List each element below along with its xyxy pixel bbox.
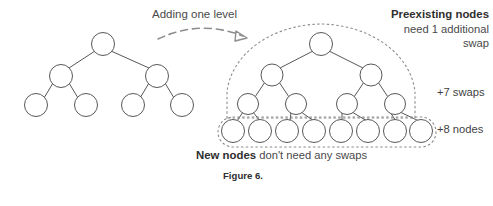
preexisting-nodes-title: Preexisting nodes xyxy=(381,7,489,22)
edge-a-a1 xyxy=(255,82,265,97)
adding-one-level-label: Adding one level xyxy=(152,7,237,22)
tree-node-new xyxy=(303,120,326,143)
tree-node xyxy=(310,33,333,56)
tree-node-new xyxy=(249,120,272,143)
tree-node-new xyxy=(384,120,407,143)
expanded-tree-new-nodes xyxy=(222,120,433,143)
tree-node xyxy=(286,94,307,115)
tree-node xyxy=(171,94,194,117)
edge-b-b2 xyxy=(165,83,174,98)
tree-node xyxy=(75,94,98,117)
tree-node xyxy=(337,94,358,115)
nodes-badge-label: +8 nodes xyxy=(437,122,483,136)
tree-node-new xyxy=(276,120,299,143)
tree-node-new xyxy=(330,120,353,143)
edge-b-b1 xyxy=(140,83,149,98)
preexisting-nodes-line2: need 1 additional xyxy=(381,22,489,36)
tree-node xyxy=(25,94,48,117)
dashed-arc-path xyxy=(158,28,243,39)
edge-a-a2 xyxy=(69,83,78,98)
transition-arrow xyxy=(158,28,247,41)
edge-root-right xyxy=(111,51,149,68)
new-nodes-rest: don't need any swaps xyxy=(256,149,367,161)
swaps-badge-label: +7 swaps xyxy=(437,85,485,99)
edge-root-left xyxy=(69,51,95,68)
edge-root-right xyxy=(329,51,363,68)
tree-node xyxy=(50,65,73,88)
edge-root-left xyxy=(280,51,313,68)
original-tree-nodes xyxy=(25,33,194,117)
tree-node xyxy=(261,64,283,86)
tree-node xyxy=(122,94,145,117)
edge-b-b1 xyxy=(354,82,364,97)
new-nodes-annotation: New nodes don't need any swaps xyxy=(196,148,367,163)
tree-node xyxy=(92,33,115,56)
preexisting-nodes-annotation: Preexisting nodes need 1 additional swap xyxy=(381,7,489,50)
tree-node xyxy=(385,94,406,115)
tree-node-new xyxy=(222,120,245,143)
edge-a-a1 xyxy=(44,83,53,98)
new-nodes-title: New nodes xyxy=(196,149,256,161)
tree-node xyxy=(238,94,259,115)
tree-node xyxy=(146,65,169,88)
edge-b-b2 xyxy=(378,82,388,97)
tree-node-new xyxy=(410,120,433,143)
figure-caption: Figure 6. xyxy=(223,170,263,182)
figure-6-diagram: Adding one level Preexisting nodes need … xyxy=(0,0,493,206)
edge-a-a2 xyxy=(279,82,289,97)
tree-node xyxy=(360,64,382,86)
preexisting-nodes-line3: swap xyxy=(381,36,489,50)
tree-node-new xyxy=(357,120,380,143)
original-tree xyxy=(25,33,194,117)
